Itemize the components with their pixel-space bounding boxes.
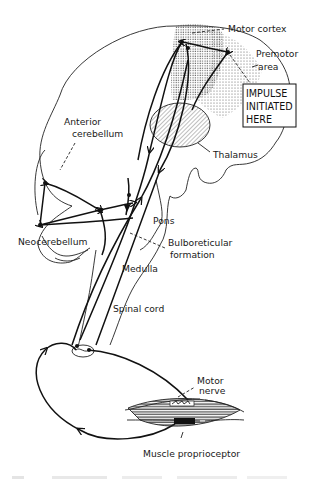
node-cortex-2 bbox=[186, 46, 190, 50]
label-impulse-1: IMPULSE bbox=[246, 88, 287, 99]
node-spinal-2 bbox=[87, 348, 91, 352]
label-spinal-cord: Spinal cord bbox=[113, 303, 164, 314]
label-anterior-2: cerebellum bbox=[72, 128, 123, 139]
motor-efferent-loop bbox=[88, 350, 188, 400]
node-cortex bbox=[180, 40, 184, 44]
label-anterior-1: Anterior bbox=[64, 116, 101, 127]
bulboreticular-arrowhead bbox=[124, 204, 131, 212]
node-premotor bbox=[226, 50, 230, 54]
leader-anterior-cerebellum bbox=[60, 143, 75, 170]
caption-remnant bbox=[12, 476, 292, 480]
label-motor-cortex: Motor cortex bbox=[228, 23, 287, 34]
label-premotor-2: area bbox=[258, 61, 279, 72]
proprioceptor-spindle bbox=[174, 418, 195, 424]
label-motor-nerve-2: nerve bbox=[199, 385, 226, 396]
node-spinal-1 bbox=[75, 344, 79, 348]
label-neocerebellum: Neocerebellum bbox=[18, 236, 87, 247]
node-cerebellum-top bbox=[43, 181, 47, 185]
label-impulse-2: INITIATED bbox=[246, 101, 293, 112]
label-impulse-3: HERE bbox=[246, 114, 272, 125]
label-medulla: Medulla bbox=[122, 263, 158, 274]
leader-bulboreticular bbox=[130, 233, 165, 248]
leader-thalamus bbox=[198, 143, 210, 152]
label-bulbo-2: formation bbox=[170, 249, 215, 260]
node-cerebellum-bottom bbox=[38, 223, 42, 227]
medulla-outline bbox=[76, 250, 96, 355]
label-muscle-proprioceptor: Muscle proprioceptor bbox=[143, 448, 240, 459]
corticospinal-tract bbox=[80, 42, 182, 340]
motor-control-diagram: Motor cortex Premotor area IMPULSE INITI… bbox=[0, 0, 311, 482]
label-premotor-1: Premotor bbox=[256, 48, 298, 59]
leader-muscle-proprioceptor bbox=[181, 432, 183, 438]
label-thalamus: Thalamus bbox=[212, 149, 258, 160]
node-bulbo bbox=[127, 193, 131, 197]
node-pons bbox=[98, 208, 102, 212]
label-pons: Pons bbox=[153, 215, 175, 226]
label-bulbo-1: Bulboreticular bbox=[168, 237, 233, 248]
